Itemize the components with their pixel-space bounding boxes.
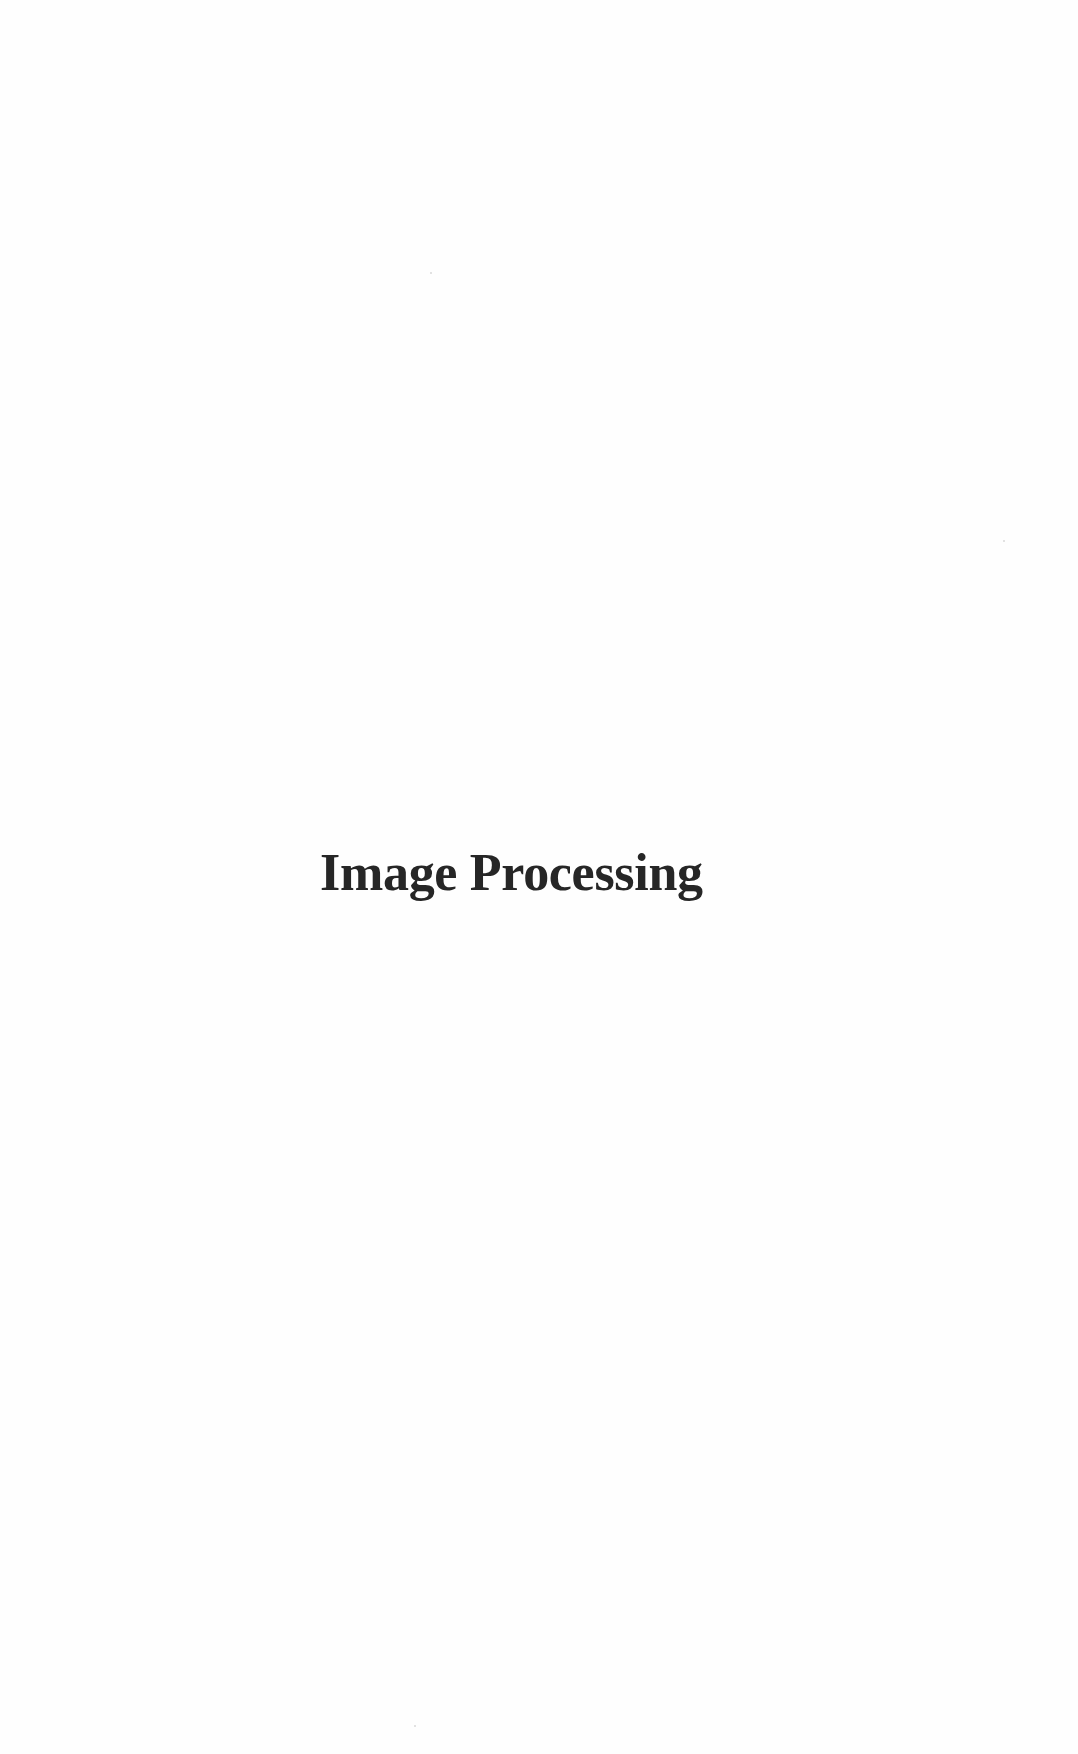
scan-speck <box>414 1725 416 1727</box>
document-page: Image Processing <box>0 0 1078 1754</box>
page-title: Image Processing <box>320 843 703 903</box>
scan-speck <box>430 272 432 274</box>
scan-speck <box>1003 540 1005 542</box>
